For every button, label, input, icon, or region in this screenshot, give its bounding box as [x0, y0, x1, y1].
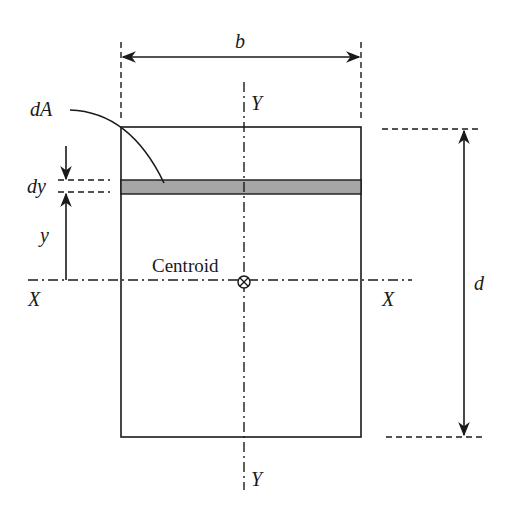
circle-cross-icon: [238, 276, 250, 288]
centroid-label: Centroid: [152, 255, 219, 276]
width-label: b: [235, 30, 245, 52]
width-dimension: b: [121, 30, 361, 118]
area-element-callout: dA: [30, 98, 164, 183]
depth-label: d: [474, 272, 485, 294]
distance-dimension: y: [38, 194, 66, 280]
area-element-label: dA: [30, 98, 53, 120]
strip-thickness-dimension: dy: [27, 146, 110, 198]
x-axis-label-left: X: [27, 288, 41, 310]
cross-section-diagram: b Y Y X X Centroid dA dy y: [0, 0, 506, 512]
y-distance-label: y: [38, 224, 49, 247]
dy-label: dy: [27, 175, 46, 198]
y-axis-label-bottom: Y: [251, 468, 264, 490]
x-axis-label-right: X: [381, 288, 395, 310]
area-element-leader: [70, 110, 164, 183]
x-axis: X X: [27, 280, 412, 310]
y-axis-label-top: Y: [251, 92, 264, 114]
area-strip: [121, 180, 361, 194]
depth-dimension: d: [382, 129, 485, 437]
centroid: Centroid: [152, 255, 250, 288]
